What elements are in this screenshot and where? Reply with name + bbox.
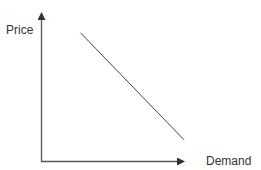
x-axis-label: Demand bbox=[206, 154, 251, 168]
demand-curve-line bbox=[80, 33, 184, 140]
y-axis-label: Price bbox=[6, 23, 34, 37]
demand-chart: Price Demand bbox=[0, 0, 261, 170]
